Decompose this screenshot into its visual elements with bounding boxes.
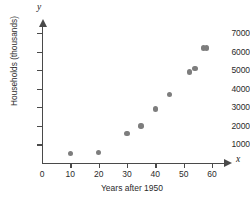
y-axis-title: Households (thousands): [9, 0, 19, 131]
data-point: [124, 131, 129, 136]
x-tick-mark: [99, 163, 100, 168]
x-tick-mark: [212, 163, 213, 168]
data-point: [192, 66, 197, 71]
x-tick-label: 60: [201, 169, 223, 179]
x-tick-label: 40: [144, 169, 166, 179]
x-tick-label: 0: [31, 169, 53, 179]
x-tick-label: 20: [88, 169, 110, 179]
x-axis-arrow-icon: [224, 159, 232, 167]
x-axis-letter: x: [236, 154, 240, 164]
data-point: [138, 123, 143, 128]
y-tick-mark: [37, 52, 43, 53]
y-tick-label: 4000: [216, 84, 250, 94]
y-tick-mark: [37, 70, 43, 71]
data-point: [167, 92, 172, 97]
x-tick-label: 30: [116, 169, 138, 179]
x-axis-title: Years after 1950: [42, 183, 222, 193]
data-point: [187, 69, 192, 74]
data-point: [68, 151, 73, 156]
data-point: [96, 150, 101, 155]
y-tick-label: 2000: [216, 121, 250, 131]
y-tick-mark: [37, 33, 43, 34]
x-tick-mark: [184, 163, 185, 168]
x-tick-mark: [70, 163, 71, 168]
y-tick-mark: [37, 144, 43, 145]
y-tick-mark: [37, 107, 43, 108]
y-axis-line: [42, 26, 43, 163]
data-point: [153, 106, 158, 111]
plot-area: y x 1000200030004000500060007000 0102030…: [0, 0, 250, 201]
y-tick-mark: [37, 126, 43, 127]
x-tick-mark: [127, 163, 128, 168]
y-tick-label: 5000: [216, 65, 250, 75]
y-tick-label: 3000: [216, 102, 250, 112]
x-tick-label: 50: [173, 169, 195, 179]
x-tick-label: 10: [59, 169, 81, 179]
y-tick-label: 7000: [216, 28, 250, 38]
y-tick-mark: [37, 89, 43, 90]
scatter-plot-figure: y x 1000200030004000500060007000 0102030…: [0, 0, 250, 201]
data-point: [204, 45, 209, 50]
x-tick-mark: [155, 163, 156, 168]
y-tick-label: 6000: [216, 47, 250, 57]
y-tick-label: 1000: [216, 139, 250, 149]
y-axis-arrow-icon: [39, 19, 47, 27]
y-axis-letter: y: [37, 2, 41, 12]
